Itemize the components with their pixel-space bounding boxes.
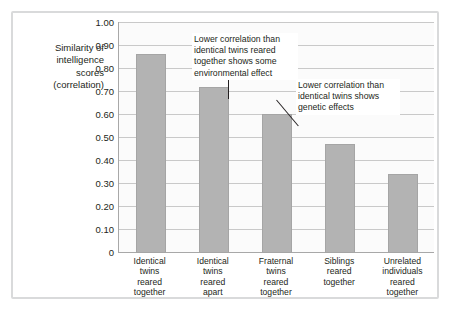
y-tick-label: 1.00 — [80, 17, 114, 28]
annotation-line: identical twins shows — [298, 91, 398, 102]
bar — [388, 174, 418, 253]
annotation-line: Lower correlation than — [194, 34, 296, 45]
x-category-label-line: reared — [118, 277, 181, 287]
x-category-label-line: together — [244, 287, 307, 297]
x-category-label-line: Identical — [118, 256, 181, 266]
y-tick-label: 0.40 — [80, 155, 114, 166]
annotation-genetic-effects: Lower correlation than identical twins s… — [296, 79, 400, 115]
x-category-label-line: twins — [244, 266, 307, 276]
x-category-label-line: Unrelated — [371, 256, 434, 266]
x-category-label: Fraternaltwinsrearedtogether — [244, 256, 307, 298]
y-tick-label: 0.70 — [80, 86, 114, 97]
x-category-label-line: together — [118, 287, 181, 297]
x-category-label-line: twins — [118, 266, 181, 276]
y-tick-label: 0.50 — [80, 132, 114, 143]
x-category-label-line: Fraternal — [244, 256, 307, 266]
x-category-label-line: Siblings — [308, 256, 371, 266]
x-category-label-line: reared — [181, 277, 244, 287]
y-tick-label: 0.60 — [80, 109, 114, 120]
chart-figure: Similarity of intelligence scores (corre… — [0, 0, 452, 320]
x-category-label-line: Identical — [181, 256, 244, 266]
y-axis-tick-labels: 1.00 0.90 0.80 0.70 0.60 0.50 0.40 0.30 … — [76, 22, 114, 253]
x-category-label-line: twins — [181, 266, 244, 276]
annotation-line: environmental effect — [194, 68, 296, 79]
x-category-label-line: together — [371, 287, 434, 297]
bar — [325, 144, 355, 253]
x-category-label-line: apart — [181, 287, 244, 297]
x-category-label-line: together — [308, 277, 371, 287]
x-category-label: Siblingsrearedtogether — [308, 256, 371, 287]
annotation-leader-line — [228, 78, 229, 99]
bar — [262, 114, 292, 253]
annotation-environmental-effect: Lower correlation than identical twins r… — [192, 33, 298, 80]
y-tick-label: 0 — [80, 247, 114, 258]
y-tick-label: 0.10 — [80, 224, 114, 235]
bar — [136, 54, 166, 253]
gridline — [119, 22, 434, 23]
y-tick-label: 0.80 — [80, 63, 114, 74]
y-tick-label: 0.20 — [80, 201, 114, 212]
x-axis-category-labels: Identicaltwinsrearedtogether Identicaltw… — [118, 256, 434, 302]
x-category-label-line: reared — [308, 266, 371, 276]
y-tick-label: 0.30 — [80, 178, 114, 189]
y-tick-label: 0.90 — [80, 40, 114, 51]
bar — [199, 87, 229, 253]
annotation-line: identical twins reared — [194, 45, 296, 56]
x-category-label: Identicaltwinsrearedapart — [181, 256, 244, 298]
x-category-label-line: reared — [371, 277, 434, 287]
x-category-label-line: reared — [244, 277, 307, 287]
annotation-line: genetic effects — [298, 102, 398, 113]
x-category-label: Identicaltwinsrearedtogether — [118, 256, 181, 298]
x-category-label-line: individuals — [371, 266, 434, 276]
annotation-line: Lower correlation than — [298, 80, 398, 91]
annotation-line: together shows some — [194, 56, 296, 67]
x-category-label: Unrelatedindividualsrearedtogether — [371, 256, 434, 298]
